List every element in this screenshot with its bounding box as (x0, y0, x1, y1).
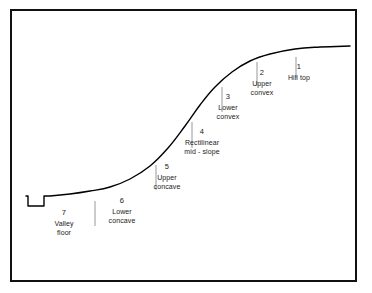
diagram-screenshot: 1 Hill top 2 Upper convex 3 Lower convex… (0, 0, 372, 293)
segment-text-line2: concave (137, 182, 197, 191)
segment-number: 5 (137, 162, 197, 171)
segment-label-7: 7 Valley floor (34, 208, 94, 237)
segment-label-3: 3 Lower convex (198, 92, 258, 121)
segment-number: 3 (198, 92, 258, 101)
segment-number: 7 (34, 208, 94, 217)
segment-text-line1: Lower (92, 207, 152, 216)
segment-text-line2: mid - slope (172, 147, 232, 156)
segment-text-line2: convex (198, 112, 258, 121)
segment-text-line1: Rectilinear (172, 138, 232, 147)
segment-label-6: 6 Lower concave (92, 196, 152, 225)
segment-text-line1: Lower (198, 103, 258, 112)
segment-label-5: 5 Upper concave (137, 162, 197, 191)
segment-number: 4 (172, 127, 232, 136)
segment-text-line2: concave (92, 216, 152, 225)
segment-text-line1: Upper (232, 79, 292, 88)
segment-text-line1: Upper (137, 173, 197, 182)
segment-number: 2 (232, 68, 292, 77)
segment-number: 6 (92, 196, 152, 205)
segment-text-line1: Valley (34, 219, 94, 228)
segment-label-4: 4 Rectilinear mid - slope (172, 127, 232, 156)
segment-text-line2: floor (34, 228, 94, 237)
